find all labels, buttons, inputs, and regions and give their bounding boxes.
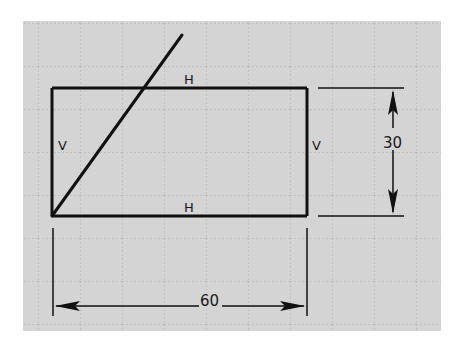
horizontal-constraint-bottom: H — [184, 200, 194, 215]
sketch-grid — [23, 21, 441, 331]
sketch-canvas[interactable]: H H V V 30 60 — [0, 0, 464, 347]
width-dimension-value[interactable]: 60 — [200, 292, 219, 310]
vertical-constraint-right: V — [312, 138, 321, 153]
horizontal-constraint-top: H — [184, 72, 194, 87]
vertical-constraint-left: V — [58, 138, 67, 153]
sketch-svg[interactable]: H H V V 30 60 — [0, 0, 464, 347]
height-dimension-value[interactable]: 30 — [383, 134, 402, 152]
